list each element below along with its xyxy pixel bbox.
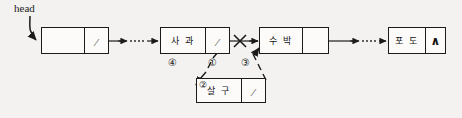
linked-list-diagram: head ⁄ 사 과 ⁄ 수 박 포 도 ∧ 살 구 ⁄ ④ ① ③ ② xyxy=(0,0,462,118)
node-sagwa: 사 과 ⁄ xyxy=(160,27,230,54)
link-slash-icon: ⁄ xyxy=(216,36,218,48)
step-marker-2: ② xyxy=(199,80,207,90)
node-subak: 수 박 xyxy=(259,27,329,54)
node-sagwa-link: ⁄ xyxy=(205,28,229,53)
node-subak-data: 수 박 xyxy=(260,28,302,53)
node-sagwa-data: 사 과 xyxy=(161,28,205,53)
link-slash-icon: ⁄ xyxy=(95,36,97,48)
head-pointer-arrow xyxy=(30,16,36,40)
node-podo-null-link: ∧ xyxy=(425,28,445,53)
node-head-link: ⁄ xyxy=(84,28,108,53)
node-podo: 포 도 ∧ xyxy=(388,27,446,54)
node-head: ⁄ xyxy=(41,27,109,54)
node-subak-link xyxy=(302,28,328,53)
head-label: head xyxy=(14,2,35,14)
step-marker-1: ① xyxy=(208,57,217,68)
node-head-data xyxy=(42,28,84,53)
step-marker-3: ③ xyxy=(241,57,250,68)
node-podo-data: 포 도 xyxy=(389,28,425,53)
ellipsis-2 xyxy=(362,40,376,42)
dashed-link-salgu-to-subak xyxy=(253,54,266,80)
ellipsis-1 xyxy=(130,40,144,42)
step-marker-4: ④ xyxy=(168,57,177,68)
link-slash-icon: ⁄ xyxy=(252,86,254,98)
node-salgu-link: ⁄ xyxy=(241,79,265,102)
